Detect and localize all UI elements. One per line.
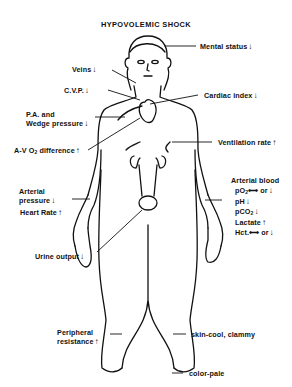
row-po2: pO2⟷ or↓	[231, 186, 279, 198]
label-heart-rate: Heart Rate↑	[20, 208, 62, 217]
bladder	[139, 196, 157, 210]
row-hct: Hct.⟷ or↓	[231, 228, 279, 238]
arrow-up-icon: ↑	[58, 208, 62, 217]
right-hand	[206, 228, 221, 262]
right-leg-outer	[174, 170, 197, 372]
hair-line	[130, 44, 165, 52]
label-cardiac-index: Cardiac index↓	[204, 91, 258, 100]
chest-line	[126, 142, 170, 152]
left-eye	[138, 60, 144, 63]
leader-cardiac-index	[150, 95, 198, 104]
arrow-down-icon: ↓	[270, 228, 274, 237]
label-arterial-blood: Arterial blood pO2⟷ or↓ pH↓ pCO2↓ Lactat…	[231, 176, 279, 237]
arrow-down-icon: ↓	[80, 252, 84, 261]
right-eye	[152, 60, 158, 63]
label-arterial-pressure: Arterial pressure↓	[19, 187, 55, 205]
label-color: color-pale	[189, 369, 224, 378]
left-hand	[75, 228, 91, 267]
ureters	[139, 165, 157, 196]
label-pa-wedge: P.A. and Wedge pressure↓	[26, 110, 88, 128]
label-skin: skin-cool, clammy	[191, 330, 255, 339]
torso-right	[160, 86, 208, 195]
row-lactate: Lactate↑	[231, 218, 279, 228]
row-ph: pH↓	[231, 197, 279, 207]
arrow-down-icon: ↓	[248, 42, 252, 51]
label-urine-output: Urine output↓	[35, 252, 84, 261]
left-arm-outer	[73, 195, 88, 246]
arrow-up-icon: ↑	[76, 146, 80, 155]
aorta	[118, 106, 142, 120]
arrow-down-icon: ↓	[269, 186, 273, 195]
arrow-down-icon: ↓	[253, 91, 257, 100]
leader-urine-output	[97, 210, 142, 252]
inner-legs	[122, 225, 174, 368]
left-leg-outer	[99, 170, 122, 372]
torso-left	[88, 86, 136, 195]
arrow-down-icon: ↓	[254, 207, 258, 216]
arrow-down-icon: ↓	[246, 197, 250, 206]
label-ventilation-rate: Ventilation rate↑	[218, 138, 276, 147]
arrow-up-icon: ↑	[272, 138, 276, 147]
leader-veins	[112, 70, 136, 83]
label-veins: Veins↓	[72, 65, 96, 74]
arrow-down-icon: ↓	[85, 86, 89, 95]
arrow-down-icon: ↓	[51, 196, 55, 205]
nose	[147, 64, 149, 71]
row-pco2: pCO2↓	[231, 207, 279, 219]
arrow-up-icon: ↑	[262, 218, 266, 227]
arrow-down-icon: ↓	[84, 119, 88, 128]
label-cvp: C.V.P.↓	[64, 86, 89, 95]
diagram-title: HYPOVOLEMIC SHOCK	[0, 20, 292, 29]
arrow-up-icon: ↑	[95, 337, 99, 346]
right-arm-outer	[208, 195, 223, 246]
label-mental-status: Mental status↓	[200, 42, 252, 51]
arrow-down-icon: ↓	[92, 65, 96, 74]
label-peripheral-resistance: Peripheral resistance↑	[57, 328, 99, 346]
label-av-o2-difference: A-V O2 difference↑	[14, 146, 80, 157]
